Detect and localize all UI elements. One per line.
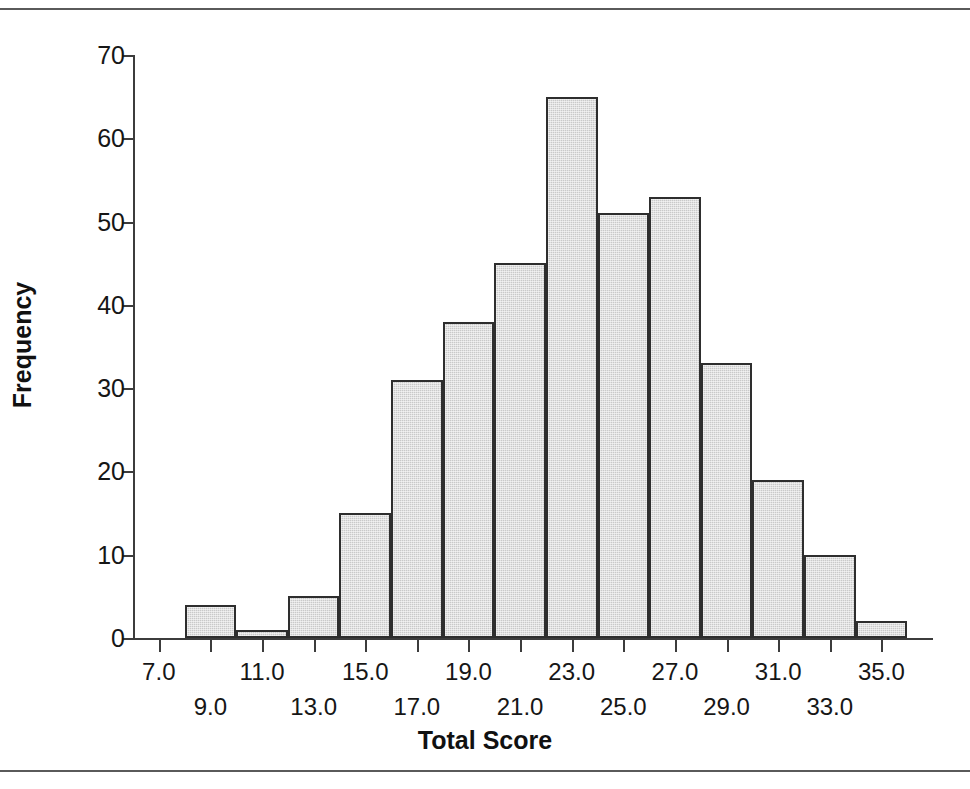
x-tick-label: 21.0	[497, 695, 544, 719]
y-tick-label: 60	[97, 126, 125, 151]
x-tick-mark	[778, 640, 780, 652]
histogram-bar	[598, 213, 650, 638]
x-axis-title: Total Score	[0, 726, 970, 755]
x-tick-mark	[727, 640, 729, 652]
y-tick-label: 40	[97, 292, 125, 317]
x-tick-mark	[468, 640, 470, 652]
figure-top-rule	[0, 8, 970, 10]
x-tick-label: 29.0	[703, 695, 750, 719]
histogram-bar	[649, 197, 701, 638]
histogram-bar	[752, 480, 804, 638]
histogram-bar	[339, 513, 391, 638]
histogram-bar	[856, 621, 908, 638]
x-axis-line	[133, 638, 933, 640]
x-tick-mark	[365, 640, 367, 652]
x-tick-label: 31.0	[755, 660, 802, 684]
x-tick-label: 35.0	[858, 660, 905, 684]
histogram-bar	[546, 97, 598, 638]
x-tick-mark	[675, 640, 677, 652]
y-axis-title: Frequency	[8, 282, 37, 408]
y-tick-label: 20	[97, 459, 125, 484]
x-tick-mark	[417, 640, 419, 652]
y-tick-label: 50	[97, 209, 125, 234]
x-tick-label: 25.0	[600, 695, 647, 719]
plot-area: 010203040506070 7.09.011.013.015.017.019…	[133, 55, 933, 638]
x-tick-label: 33.0	[806, 695, 853, 719]
histogram-bar	[701, 363, 753, 638]
x-tick-label: 7.0	[142, 660, 175, 684]
figure-bottom-rule	[0, 770, 970, 772]
y-tick-label: 0	[111, 626, 125, 651]
y-tick-label: 70	[97, 43, 125, 68]
y-tick-label: 10	[97, 542, 125, 567]
x-tick-label: 27.0	[652, 660, 699, 684]
x-tick-mark	[881, 640, 883, 652]
x-tick-mark	[520, 640, 522, 652]
histogram-bar	[443, 322, 495, 638]
x-tick-label: 15.0	[342, 660, 389, 684]
x-tick-mark	[262, 640, 264, 652]
x-tick-mark	[159, 640, 161, 652]
histogram-bar	[494, 263, 546, 638]
x-tick-mark	[830, 640, 832, 652]
histogram-bar	[804, 555, 856, 638]
x-tick-mark	[623, 640, 625, 652]
x-tick-label: 19.0	[445, 660, 492, 684]
y-axis-line	[133, 55, 135, 638]
x-tick-label: 11.0	[240, 660, 285, 684]
histogram-bar	[288, 596, 340, 638]
x-tick-label: 17.0	[394, 695, 441, 719]
x-tick-label: 23.0	[548, 660, 595, 684]
x-tick-mark	[210, 640, 212, 652]
y-tick-label: 30	[97, 376, 125, 401]
histogram-bar	[236, 630, 288, 638]
x-tick-label: 13.0	[290, 695, 337, 719]
x-tick-label: 9.0	[194, 695, 227, 719]
histogram-figure: Frequency Total Score 010203040506070 7.…	[0, 0, 970, 789]
x-tick-mark	[314, 640, 316, 652]
histogram-bar	[185, 605, 237, 638]
x-tick-mark	[572, 640, 574, 652]
histogram-bar	[391, 380, 443, 638]
